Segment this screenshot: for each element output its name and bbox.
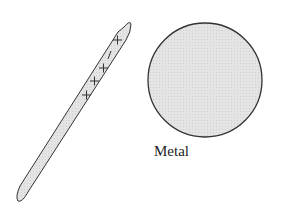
metal-label: Metal bbox=[154, 143, 189, 160]
diagram-canvas bbox=[0, 0, 283, 213]
metal-sphere bbox=[148, 23, 262, 137]
charged-rod bbox=[17, 23, 131, 202]
